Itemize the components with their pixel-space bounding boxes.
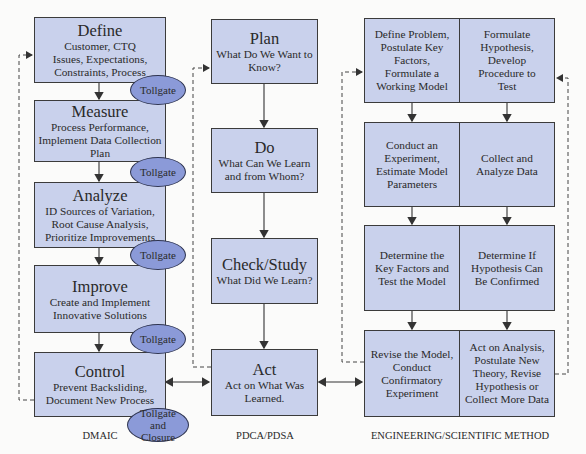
step-desc: Root Cause Analysis, — [52, 218, 149, 231]
pdca-act-box: Act Act on What Was Learned. — [211, 349, 318, 416]
step-desc: Prioritize Improvements — [45, 231, 155, 244]
step-desc: Test — [495, 80, 520, 93]
step-desc: Formulate — [481, 28, 533, 41]
step-title: Plan — [250, 29, 279, 48]
step-desc: Factors, — [391, 54, 433, 67]
eng-r2-right-box: Collect and Analyze Data — [459, 122, 555, 207]
step-desc: Hypothesis, — [477, 41, 537, 54]
step-desc: Hypothesis Can — [468, 262, 546, 275]
step-desc: Innovative Solutions — [53, 309, 147, 322]
eng-r1-right-box: Formulate Hypothesis, Develop Procedure … — [459, 18, 555, 103]
step-desc: Hypothesis or — [472, 380, 541, 393]
step-desc: Postulate New — [471, 354, 543, 367]
tollgate-closure-oval: Tollgate and Closure — [127, 408, 189, 442]
step-desc: Working Model — [373, 80, 451, 93]
step-desc: Act on What Was — [225, 379, 304, 392]
step-title: Analyze — [73, 186, 128, 205]
step-desc: Be Confirmed — [472, 275, 542, 288]
step-desc: Theory, Revise — [470, 367, 544, 380]
step-title: Act — [253, 360, 277, 379]
dmaic-feedback-loop — [19, 55, 34, 400]
step-desc: What Do We Want to — [216, 48, 312, 61]
step-desc: Document New Process — [46, 394, 155, 407]
step-desc: Collect More Data — [462, 393, 552, 406]
step-desc: Test the Model — [375, 275, 449, 288]
eng-r3-right-box: Determine If Hypothesis Can Be Confirmed — [459, 225, 555, 311]
step-desc: Determine If — [475, 249, 539, 262]
eng-r4-left-box: Revise the Model, Conduct Confirmatory E… — [364, 330, 460, 417]
step-desc: Collect and — [478, 152, 536, 165]
step-desc: Constraints, Process — [54, 66, 146, 79]
dmaic-improve-box: Improve Create and Implement Innovative … — [34, 265, 166, 333]
step-desc: Determine the — [377, 249, 447, 262]
engineering-left-feedback-loop — [342, 72, 364, 362]
eng-r1-left-box: Define Problem, Postulate Key Factors, F… — [364, 18, 460, 103]
step-desc: Procedure to — [475, 67, 538, 80]
step-desc: Key Factors and — [372, 262, 452, 275]
dmaic-measure-box: Measure Process Performance, Implement D… — [34, 100, 166, 162]
pdca-feedback-loop — [193, 68, 211, 367]
step-desc: Conduct an — [383, 139, 441, 152]
engineering-right-feedback-loop — [555, 78, 568, 374]
step-desc: Know? — [248, 61, 281, 74]
step-desc: Confirmatory — [378, 374, 446, 387]
tollgate-oval: Tollgate — [130, 240, 186, 270]
step-desc: Develop — [485, 54, 529, 67]
pdca-check-box: Check/Study What Did We Learn? — [211, 238, 318, 304]
step-title: Define — [78, 21, 123, 40]
step-desc: Revise the Model, — [368, 348, 457, 361]
dmaic-define-box: Define Customer, CTQ Issues, Expectation… — [34, 17, 166, 83]
engineering-label: ENGINEERING/SCIENTIFIC METHOD — [362, 430, 558, 441]
step-desc: Estimate Model — [373, 165, 451, 178]
eng-r3-left-box: Determine the Key Factors and Test the M… — [364, 225, 460, 311]
step-desc: Issues, Expectations, — [53, 53, 147, 66]
step-desc: Plan — [90, 147, 110, 160]
step-desc: and from Whom? — [225, 170, 304, 183]
step-desc: Customer, CTQ — [64, 40, 136, 53]
tollgate-oval: Tollgate — [130, 324, 186, 354]
step-desc: Define Problem, — [372, 28, 453, 41]
tollgate-oval: Tollgate — [130, 157, 186, 187]
step-desc: Process Performance, — [51, 121, 149, 134]
step-desc: Implement Data Collection — [39, 134, 162, 147]
eng-r2-left-box: Conduct an Experiment, Estimate Model Pa… — [364, 122, 460, 207]
step-desc: What Can We Learn — [218, 157, 310, 170]
step-desc: Create and Implement — [50, 296, 150, 309]
step-desc: ID Sources of Variation, — [45, 205, 155, 218]
pdca-do-box: Do What Can We Learn and from Whom? — [211, 128, 318, 193]
step-title: Check/Study — [222, 255, 307, 274]
eng-r4-right-box: Act on Analysis, Postulate New Theory, R… — [459, 330, 555, 417]
step-desc: Formulate a — [382, 67, 442, 80]
step-desc: Learned. — [245, 392, 285, 405]
step-desc: Prevent Backsliding, — [53, 381, 147, 394]
step-title: Improve — [72, 277, 128, 296]
tollgate-closure-text: Tollgate and Closure — [135, 407, 181, 443]
step-desc: Conduct — [390, 361, 434, 374]
step-desc: Act on Analysis, — [467, 341, 548, 354]
step-desc: What Did We Learn? — [217, 274, 313, 287]
tollgate-oval: Tollgate — [130, 75, 186, 105]
step-desc: Experiment — [383, 387, 442, 400]
step-desc: Experiment, — [381, 152, 443, 165]
dmaic-label: DMAIC — [70, 430, 130, 441]
step-desc: Postulate Key — [377, 41, 446, 54]
step-desc: Analyze Data — [473, 165, 541, 178]
step-title: Control — [75, 362, 125, 381]
pdca-label: PDCA/PDSA — [224, 430, 306, 441]
pdca-plan-box: Plan What Do We Want to Know? — [211, 19, 318, 84]
step-title: Do — [254, 138, 274, 157]
step-desc: Parameters — [384, 178, 440, 191]
dmaic-analyze-box: Analyze ID Sources of Variation, Root Ca… — [34, 182, 166, 248]
step-title: Measure — [72, 102, 129, 121]
